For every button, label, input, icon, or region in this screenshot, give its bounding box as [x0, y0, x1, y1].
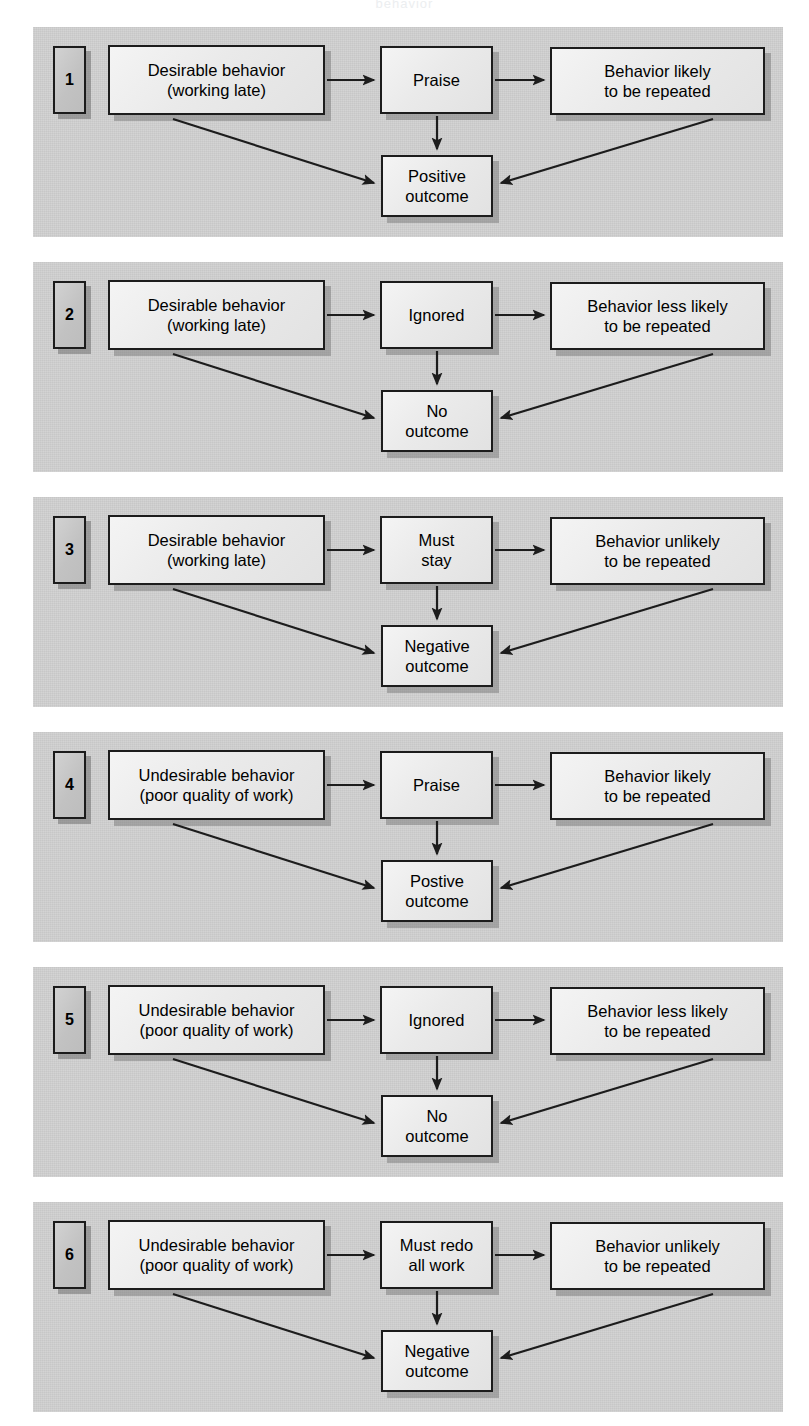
- behavior-box-line1: Desirable behavior: [148, 60, 286, 80]
- likelihood-box-line2: to be repeated: [604, 786, 710, 806]
- consequence-box-line1: Ignored: [409, 1010, 465, 1030]
- arrow-5: [501, 354, 713, 418]
- outcome-box-line1: Negative: [404, 636, 469, 656]
- behavior-box-line2: (working late): [148, 80, 286, 100]
- consequence-box: Ignored: [380, 281, 493, 349]
- panel-number-badge: 4: [53, 751, 86, 819]
- panel-4: 4Undesirable behavior(poor quality of wo…: [33, 732, 783, 942]
- behavior-box-line2: (working late): [148, 550, 286, 570]
- consequence-box: Must redoall work: [380, 1221, 493, 1289]
- panel-number-badge: 1: [53, 46, 86, 114]
- behavior-box: Desirable behavior(working late): [108, 515, 325, 585]
- behavior-box-line2: (poor quality of work): [139, 1255, 295, 1275]
- behavior-box-line2: (poor quality of work): [139, 785, 295, 805]
- outcome-box: Negativeoutcome: [381, 1330, 493, 1392]
- behavior-box-line2: (working late): [148, 315, 286, 335]
- arrow-4: [173, 354, 374, 418]
- outcome-box-line2: outcome: [404, 1361, 469, 1381]
- consequence-box-line1: Must redo: [400, 1235, 473, 1255]
- likelihood-box-line1: Behavior likely: [604, 61, 710, 81]
- panel-number-badge: 6: [53, 1221, 86, 1289]
- likelihood-box: Behavior less likelyto be repeated: [550, 282, 765, 350]
- outcome-box-line2: outcome: [404, 656, 469, 676]
- behavior-box: Undesirable behavior(poor quality of wor…: [108, 985, 325, 1055]
- outcome-box-line1: Negative: [404, 1341, 469, 1361]
- behavior-box-line1: Undesirable behavior: [139, 1000, 295, 1020]
- panel-number-badge: 3: [53, 516, 86, 584]
- arrow-4: [173, 589, 374, 653]
- likelihood-box-line1: Behavior unlikely: [595, 1236, 720, 1256]
- panel-number-badge: 2: [53, 281, 86, 349]
- panel-number-badge: 5: [53, 986, 86, 1054]
- arrow-4: [173, 119, 374, 183]
- likelihood-box-line2: to be repeated: [587, 316, 727, 336]
- outcome-box: Negativeoutcome: [381, 625, 493, 687]
- consequence-box-line1: Ignored: [409, 305, 465, 325]
- arrow-4: [173, 824, 374, 888]
- outcome-box-line1: No: [405, 401, 468, 421]
- likelihood-box: Behavior likelyto be repeated: [550, 47, 765, 115]
- panel-1: 1Desirable behavior(working late)PraiseB…: [33, 27, 783, 237]
- consequence-box: Praise: [380, 46, 493, 114]
- likelihood-box: Behavior unlikelyto be repeated: [550, 1222, 765, 1290]
- consequence-box-line2: stay: [419, 550, 455, 570]
- consequence-box-line1: Praise: [413, 70, 460, 90]
- likelihood-box: Behavior unlikelyto be repeated: [550, 517, 765, 585]
- arrow-4: [173, 1294, 374, 1358]
- likelihood-box-line2: to be repeated: [604, 81, 710, 101]
- outcome-box: Nooutcome: [381, 390, 493, 452]
- arrow-5: [501, 589, 713, 653]
- arrow-5: [501, 1059, 713, 1123]
- behavior-box-line1: Undesirable behavior: [139, 765, 295, 785]
- behavior-box: Desirable behavior(working late): [108, 280, 325, 350]
- outcome-box-line2: outcome: [405, 186, 468, 206]
- likelihood-box-line1: Behavior likely: [604, 766, 710, 786]
- likelihood-box-line2: to be repeated: [595, 1256, 720, 1276]
- outcome-box-line1: No: [405, 1106, 468, 1126]
- outcome-box-line2: outcome: [405, 1126, 468, 1146]
- behavior-box-line2: (poor quality of work): [139, 1020, 295, 1040]
- consequence-box-line1: Must: [419, 530, 455, 550]
- panel-3: 3Desirable behavior(working late)Muststa…: [33, 497, 783, 707]
- outcome-box-line2: outcome: [405, 891, 468, 911]
- likelihood-box: Behavior less likelyto be repeated: [550, 987, 765, 1055]
- behavior-box-line1: Desirable behavior: [148, 530, 286, 550]
- likelihood-box-line1: Behavior less likely: [587, 296, 727, 316]
- likelihood-box-line2: to be repeated: [587, 1021, 727, 1041]
- consequence-box: Ignored: [380, 986, 493, 1054]
- arrow-5: [501, 119, 713, 183]
- arrow-5: [501, 1294, 713, 1358]
- panel-5: 5Undesirable behavior(poor quality of wo…: [33, 967, 783, 1177]
- likelihood-box-line2: to be repeated: [595, 551, 720, 571]
- consequence-box: Muststay: [380, 516, 493, 584]
- behavior-box-line1: Desirable behavior: [148, 295, 286, 315]
- behavior-box: Undesirable behavior(poor quality of wor…: [108, 750, 325, 820]
- behavior-box: Desirable behavior(working late): [108, 45, 325, 115]
- panel-2: 2Desirable behavior(working late)Ignored…: [33, 262, 783, 472]
- outcome-box: Positiveoutcome: [381, 155, 493, 217]
- likelihood-box: Behavior likelyto be repeated: [550, 752, 765, 820]
- outcome-box: Postiveoutcome: [381, 860, 493, 922]
- outcome-box-line1: Postive: [405, 871, 468, 891]
- outcome-box-line1: Positive: [405, 166, 468, 186]
- diagram-panels-container: 1Desirable behavior(working late)PraiseB…: [0, 0, 809, 1426]
- consequence-box: Praise: [380, 751, 493, 819]
- panel-6: 6Undesirable behavior(poor quality of wo…: [33, 1202, 783, 1412]
- outcome-box-line2: outcome: [405, 421, 468, 441]
- likelihood-box-line1: Behavior less likely: [587, 1001, 727, 1021]
- consequence-box-line2: all work: [400, 1255, 473, 1275]
- likelihood-box-line1: Behavior unlikely: [595, 531, 720, 551]
- behavior-box: Undesirable behavior(poor quality of wor…: [108, 1220, 325, 1290]
- arrow-5: [501, 824, 713, 888]
- behavior-box-line1: Undesirable behavior: [139, 1235, 295, 1255]
- outcome-box: Nooutcome: [381, 1095, 493, 1157]
- consequence-box-line1: Praise: [413, 775, 460, 795]
- arrow-4: [173, 1059, 374, 1123]
